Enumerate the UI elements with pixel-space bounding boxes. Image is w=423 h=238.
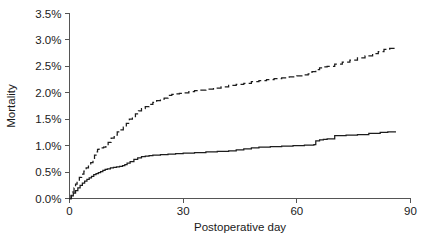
y-axis-group: 0.0%0.5%1.0%1.5%2.0%2.5%3.0%3.5% xyxy=(35,8,69,205)
chart-canvas: 0.0%0.5%1.0%1.5%2.0%2.5%3.0%3.5% 0306090… xyxy=(0,0,423,238)
y-tick-label: 3.5% xyxy=(35,8,61,20)
y-tick-label: 2.5% xyxy=(35,60,61,72)
y-axis-title: Mortality xyxy=(5,84,17,128)
x-axis-group: 0306090 xyxy=(66,199,417,217)
y-axis-ticks xyxy=(65,14,70,199)
y-tick-label: 2.0% xyxy=(35,87,61,99)
x-axis-ticks xyxy=(70,199,411,204)
x-axis-tick-labels: 0306090 xyxy=(66,205,417,217)
lower-curve-path xyxy=(70,131,396,198)
upper-curve-path xyxy=(70,48,396,199)
x-tick-label: 30 xyxy=(177,205,190,217)
x-tick-label: 90 xyxy=(404,205,417,217)
y-tick-label: 1.5% xyxy=(35,113,61,125)
y-tick-label: 1.0% xyxy=(35,140,61,152)
x-axis-title: Postoperative day xyxy=(194,221,286,233)
y-axis-tick-labels: 0.0%0.5%1.0%1.5%2.0%2.5%3.0%3.5% xyxy=(35,8,61,205)
mortality-chart-figure: 0.0%0.5%1.0%1.5%2.0%2.5%3.0%3.5% 0306090… xyxy=(0,0,423,238)
series-group xyxy=(70,48,396,199)
x-tick-label: 0 xyxy=(66,205,72,217)
y-tick-label: 0.5% xyxy=(35,166,61,178)
y-tick-label: 0.0% xyxy=(35,193,61,205)
y-tick-label: 3.0% xyxy=(35,34,61,46)
x-tick-label: 60 xyxy=(290,205,303,217)
